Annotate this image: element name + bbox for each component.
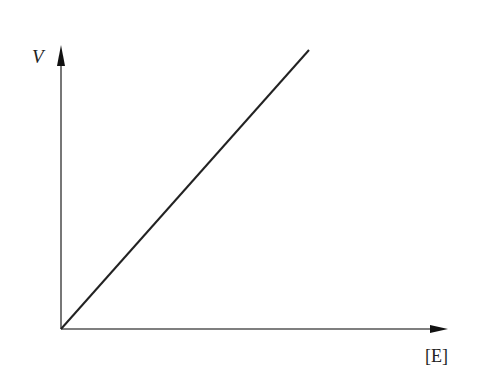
x-axis-label: [E]: [425, 346, 448, 366]
x-axis-arrowhead: [430, 325, 448, 333]
y-axis: [57, 45, 65, 329]
data-line: [61, 50, 309, 329]
y-axis-label: V: [32, 46, 46, 67]
x-axis: [61, 325, 448, 333]
y-axis-arrowhead: [57, 45, 65, 66]
diagram-canvas: V [E]: [0, 0, 486, 388]
